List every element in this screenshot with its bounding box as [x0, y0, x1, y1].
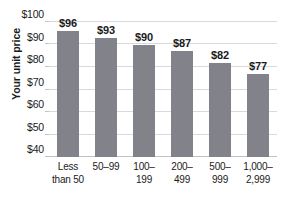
x-axis-label-line: 2,999 — [235, 173, 281, 186]
bar-group: $82 — [201, 21, 239, 157]
bar-group: $93 — [87, 21, 125, 157]
bar[interactable] — [247, 74, 269, 157]
x-axis-tick-label: 1,000–2,999 — [235, 160, 281, 186]
y-axis-tick-mark — [45, 156, 49, 157]
y-axis-tick-labels: $100$90$80$70$60$50$40 — [8, 14, 44, 163]
x-axis-label-line: than 50 — [45, 173, 91, 186]
bar-group: $96 — [49, 21, 87, 157]
y-axis-tick-label: $100 — [8, 8, 44, 21]
bar-chart: Your unit price $100$90$80$70$60$50$40 $… — [0, 0, 288, 197]
bar[interactable] — [209, 63, 231, 158]
y-axis-tick-label: $60 — [8, 98, 44, 111]
y-axis-tick-label: $50 — [8, 121, 44, 134]
x-axis-label-line: 1,000– — [235, 160, 281, 173]
y-axis-tick-mark — [45, 21, 49, 22]
bar[interactable] — [133, 45, 155, 158]
y-axis-tick-mark — [45, 111, 49, 112]
bar[interactable] — [57, 31, 79, 157]
y-axis-tick-label: $90 — [8, 31, 44, 44]
bar-group: $90 — [125, 21, 163, 157]
y-axis-tick-mark — [45, 43, 49, 44]
y-axis-tick-mark — [45, 89, 49, 90]
bar[interactable] — [171, 51, 193, 157]
bar-group: $87 — [163, 21, 201, 157]
bar[interactable] — [95, 38, 117, 157]
y-axis-tick-mark — [45, 134, 49, 135]
y-axis-tick-label: $70 — [8, 76, 44, 89]
x-axis-tick-labels: Lessthan 5050–99100–199200–499500–9991,0… — [49, 160, 277, 196]
y-axis-tick-mark — [45, 66, 49, 67]
y-axis-tick-label: $40 — [8, 143, 44, 156]
bars-layer: $96$93$90$87$82$77 — [49, 21, 277, 157]
y-axis-tick-label: $80 — [8, 53, 44, 66]
bar-group: $77 — [239, 21, 277, 157]
bar-value-label: $77 — [235, 60, 281, 73]
